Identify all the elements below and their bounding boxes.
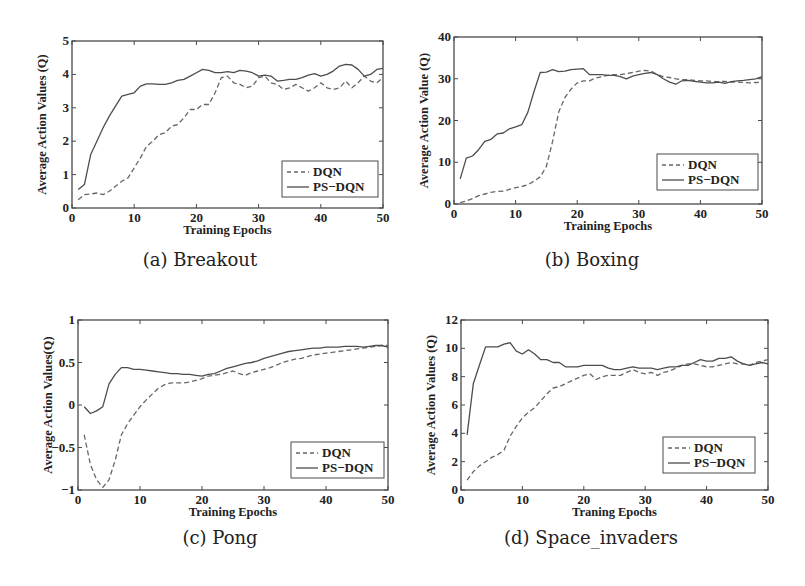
y-tick-label: 10 bbox=[445, 340, 458, 355]
y-tick-label: 4 bbox=[452, 425, 459, 440]
x-tick-label: 40 bbox=[700, 492, 713, 507]
y-tick-label: 0 bbox=[452, 482, 459, 497]
ps-dqn-line bbox=[467, 343, 768, 435]
x-tick-label: 10 bbox=[516, 492, 529, 507]
y-tick-label: 12 bbox=[445, 312, 458, 327]
y-tick-label: 2 bbox=[452, 454, 459, 469]
caption-breakout: (a) Breakout bbox=[143, 249, 257, 270]
caption-pong: (c) Pong bbox=[182, 527, 257, 548]
x-tick-label: 0 bbox=[458, 492, 465, 507]
x-tick-label: 50 bbox=[762, 492, 775, 507]
y-tick-label: 6 bbox=[452, 397, 459, 412]
y-tick-label: 8 bbox=[452, 369, 459, 384]
legend-dqn-label: DQN bbox=[694, 440, 724, 455]
legend: DQNPS−DQN bbox=[663, 437, 755, 473]
caption-space-invaders: (d) Space_invaders bbox=[504, 527, 678, 548]
legend-psdqn-label: PS−DQN bbox=[694, 455, 746, 470]
x-axis-label: Traning Epochs bbox=[572, 505, 657, 519]
y-axis-label: Average Action Values (Q) bbox=[424, 335, 438, 475]
caption-boxing: (b) Boxing bbox=[545, 249, 639, 270]
